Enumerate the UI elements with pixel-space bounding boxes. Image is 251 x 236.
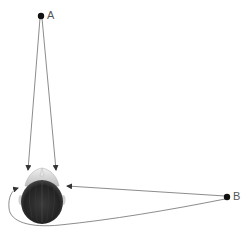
arrow-a-to-head-right (42, 18, 56, 170)
point-a-label: A (47, 10, 54, 21)
arrow-a-to-head-left (28, 18, 40, 170)
point-b-label: B (233, 191, 240, 202)
point-a-marker (38, 13, 44, 19)
head-figure (19, 168, 66, 224)
point-b-marker (224, 194, 230, 200)
sound-source-diagram (0, 0, 251, 236)
arrow-b-to-head-right (67, 186, 225, 196)
